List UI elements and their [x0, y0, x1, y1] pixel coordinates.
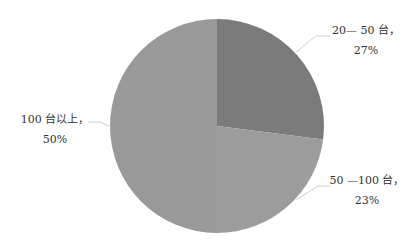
leader-line-20-50: [296, 36, 330, 52]
data-label-percent: 27%: [326, 41, 406, 61]
data-label-20-50: 20— 50 台， 27%: [326, 21, 406, 61]
data-label-category: 50 —100 台，: [326, 171, 408, 191]
data-label-100-plus: 100 台以上， 50%: [20, 110, 90, 150]
data-label-category: 100 台以上，: [20, 110, 90, 130]
pie-slices: [110, 19, 324, 233]
leader-line-100-plus: [88, 122, 111, 127]
data-label-percent: 50%: [20, 130, 90, 150]
data-label-percent: 23%: [326, 191, 408, 211]
data-label-50-100: 50 —100 台， 23%: [326, 171, 408, 211]
pie-slice-1: [217, 126, 323, 233]
pie-slice-2: [110, 19, 217, 233]
pie-slice-0: [217, 19, 324, 139]
data-label-category: 20— 50 台，: [326, 21, 406, 41]
